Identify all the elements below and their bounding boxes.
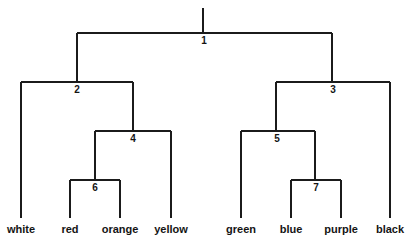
node-label-4: 4 <box>130 133 136 144</box>
leaf-label-black: black <box>376 223 405 235</box>
node-label-5: 5 <box>274 133 280 144</box>
node-label-2: 2 <box>74 84 80 95</box>
leaf-label-red: red <box>61 223 78 235</box>
node-label-1: 1 <box>201 35 207 46</box>
node-label-7: 7 <box>313 182 319 193</box>
leaf-label-white: white <box>6 223 35 235</box>
leaf-label-purple: purple <box>324 223 358 235</box>
dendrogram-figure: 1 2 3 4 5 6 7 white red orange yellow gr… <box>0 0 408 245</box>
dendrogram-canvas: 1 2 3 4 5 6 7 white red orange yellow gr… <box>0 0 408 245</box>
leaf-label-green: green <box>226 223 256 235</box>
node-label-3: 3 <box>330 84 336 95</box>
node-label-6: 6 <box>92 182 98 193</box>
leaf-label-blue: blue <box>280 223 303 235</box>
leaf-label-yellow: yellow <box>154 223 188 235</box>
leaf-label-orange: orange <box>102 223 139 235</box>
